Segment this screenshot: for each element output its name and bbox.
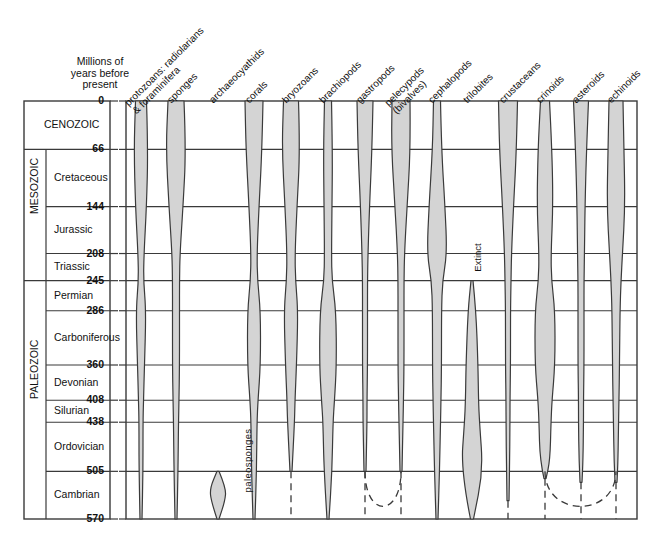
axis-ticks [110, 101, 126, 519]
tick-label-144: 144 [68, 200, 104, 212]
tick-label-286: 286 [68, 304, 104, 316]
period-label-devonian: Devonian [54, 376, 98, 388]
tick-label-438: 438 [68, 415, 104, 427]
spindle-asteroids [574, 101, 589, 482]
period-label-silurian: Silurian [54, 404, 89, 416]
spindle-trilobites [462, 281, 481, 519]
spindle-gastropods [357, 101, 373, 471]
dashed-lineages [291, 471, 616, 519]
spindle-cephalopods [428, 101, 447, 519]
figure-root: Millions of years before present protozo… [0, 0, 653, 537]
dashed-ancestry-arc [365, 471, 401, 506]
spindle-brachiopods [320, 101, 337, 519]
tick-label-0: 0 [68, 94, 104, 106]
period-label-permian: Permian [54, 289, 93, 301]
period-label-cretaceous: Cretaceous [54, 171, 108, 183]
spindle-protozoans-radiolarians-foraminifera [134, 101, 147, 519]
period-label-cambrian: Cambrian [54, 488, 100, 500]
spindle-bryozoans [283, 101, 300, 471]
spindle-crustaceans [499, 101, 518, 501]
annotation-extinct: Extinct [472, 243, 483, 272]
spindle-shapes [134, 101, 624, 519]
era-label-cenozoic: CENOZOIC [44, 118, 99, 130]
tick-label-570: 570 [68, 512, 104, 524]
tick-label-505: 505 [68, 464, 104, 476]
spindle-archaeocyathids [210, 471, 225, 519]
annotation-paleosponges: paleosponges [242, 429, 253, 493]
axis-caption: Millions of years before present [61, 56, 139, 91]
period-label-carboniferous: Carboniferous [54, 331, 120, 343]
tick-label-245: 245 [68, 274, 104, 286]
spindle-pelecypods-bivalves- [392, 101, 410, 471]
period-label-ordovician: Ordovician [54, 440, 104, 452]
spindle-sponges [167, 101, 186, 519]
tick-label-66: 66 [68, 142, 104, 154]
period-label-jurassic: Jurassic [54, 223, 93, 235]
tick-label-208: 208 [68, 247, 104, 259]
period-label-triassic: Triassic [54, 260, 90, 272]
tick-label-360: 360 [68, 358, 104, 370]
spindle-echinoids [607, 101, 624, 482]
